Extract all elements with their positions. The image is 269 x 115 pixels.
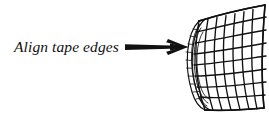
arrow-shaft-icon	[125, 44, 170, 50]
align-tape-edges-diagram: Align tape edges	[0, 0, 269, 115]
callout-label: Align tape edges	[13, 38, 119, 55]
warp-strand-3	[223, 16, 231, 110]
warp-strand-5	[242, 12, 249, 110]
mesh-tape-sheet	[186, 5, 266, 110]
warp-strand-6	[252, 9, 257, 108]
mesh-outline-bottom	[205, 108, 264, 110]
warp-strand-2	[214, 17, 222, 110]
pointer-arrow	[125, 39, 189, 55]
figure-root: Align tape edges	[0, 0, 269, 115]
warp-strand-4	[233, 14, 240, 110]
